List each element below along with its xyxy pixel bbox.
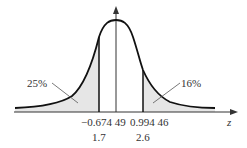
z-axis-label: z bbox=[226, 116, 232, 128]
right-area-label: 16% bbox=[181, 77, 201, 89]
right-tail-shade bbox=[143, 70, 215, 112]
z-right-tick-label: 0.994 46 bbox=[130, 116, 169, 128]
normal-curve bbox=[15, 20, 215, 108]
z-left-tick-label: −0.674 49 bbox=[81, 116, 126, 128]
left-area-label: 25% bbox=[27, 77, 47, 89]
x-left-tick-label: 1.7 bbox=[92, 131, 106, 143]
y-axis-arrow-icon bbox=[113, 6, 119, 14]
normal-curve-chart: 25% 16% −0.674 49 0.994 46 1.7 2.6 z bbox=[0, 0, 247, 148]
z-axis-arrow-icon bbox=[230, 109, 238, 115]
x-right-tick-label: 2.6 bbox=[136, 131, 150, 143]
